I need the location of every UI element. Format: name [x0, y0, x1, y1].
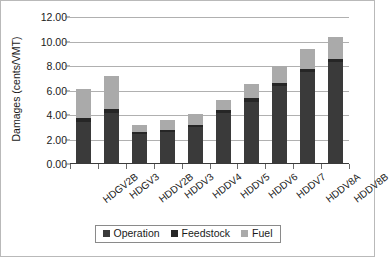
y-axis-tick-label: 0.00: [19, 158, 67, 170]
x-axis-label-hddv4: HDDV4: [211, 171, 244, 201]
bar-slot-hddv3: [154, 17, 182, 164]
plot-area: [70, 17, 349, 164]
stacked-bar[interactable]: [188, 114, 203, 164]
legend-label: Operation: [113, 228, 159, 239]
bar-slot-hddv2b: [126, 17, 154, 164]
legend-label: Fuel: [252, 228, 272, 239]
bar-segment-operation[interactable]: [104, 113, 119, 164]
bar-segment-fuel[interactable]: [76, 89, 91, 118]
stacked-bar[interactable]: [104, 76, 119, 164]
x-axis-tick-mark: [349, 164, 350, 169]
bar-segment-operation[interactable]: [216, 113, 231, 164]
bar-slot-hddv7: [265, 17, 293, 164]
stacked-bar[interactable]: [216, 100, 231, 164]
bar-segment-fuel[interactable]: [300, 49, 315, 69]
y-axis-tick-label: 10.00: [19, 36, 67, 48]
bar-segment-fuel[interactable]: [160, 120, 175, 130]
bar-segment-fuel[interactable]: [216, 100, 231, 110]
bar-segment-operation[interactable]: [188, 127, 203, 164]
bar-slot-hdgv3: [98, 17, 126, 164]
x-axis-label-hddv5: HDDV5: [238, 171, 271, 201]
legend-swatch-fuel: [241, 230, 248, 237]
x-axis-label-hddv6: HDDV6: [266, 171, 299, 201]
bar-slot-hddv8a: [293, 17, 321, 164]
stacked-bar[interactable]: [132, 125, 147, 164]
y-axis-tick-label: 8.00: [19, 60, 67, 72]
stacked-bar[interactable]: [272, 66, 287, 164]
bar-segment-operation[interactable]: [132, 134, 147, 164]
y-axis-tick-label: 6.00: [19, 85, 67, 97]
bar-segment-fuel[interactable]: [272, 66, 287, 83]
bar-segment-fuel[interactable]: [188, 114, 203, 125]
bar-segment-fuel[interactable]: [328, 37, 343, 59]
legend-label: Feedstock: [182, 228, 230, 239]
bar-segment-operation[interactable]: [328, 62, 343, 164]
bar-segment-fuel[interactable]: [104, 76, 119, 109]
x-axis-labels: HDGV2BHDGV3HDDV2BHDDV3HDDV4HDDV5HDDV6HDD…: [70, 169, 349, 215]
stacked-bar[interactable]: [76, 89, 91, 164]
stacked-bar[interactable]: [328, 37, 343, 164]
y-axis-tick-label: 4.00: [19, 109, 67, 121]
bar-segment-fuel[interactable]: [132, 125, 147, 132]
bar-segment-operation[interactable]: [76, 122, 91, 164]
bar-slot-hddv5: [210, 17, 238, 164]
y-axis-tick-label: 12.00: [19, 11, 67, 23]
bar-series-group: [70, 17, 349, 164]
bar-segment-operation[interactable]: [300, 72, 315, 164]
y-axis-tick-label: 2.00: [19, 134, 67, 146]
bar-slot-hddv8b: [321, 17, 349, 164]
legend-item-operation[interactable]: Operation: [102, 228, 159, 239]
stacked-bar[interactable]: [244, 84, 259, 164]
bar-segment-operation[interactable]: [244, 102, 259, 164]
legend-item-feedstock[interactable]: Feedstock: [171, 228, 230, 239]
bar-slot-hdgv2b: [70, 17, 98, 164]
bar-slot-hddv6: [237, 17, 265, 164]
chart-legend: OperationFeedstockFuel: [94, 225, 280, 243]
legend-swatch-operation: [102, 230, 109, 237]
bar-segment-operation[interactable]: [160, 132, 175, 164]
bar-slot-hddv4: [182, 17, 210, 164]
x-axis-label-hddv7: HDDV7: [294, 171, 327, 201]
legend-item-fuel[interactable]: Fuel: [241, 228, 272, 239]
legend-swatch-feedstock: [171, 230, 178, 237]
bar-segment-operation[interactable]: [272, 86, 287, 164]
stacked-bar[interactable]: [160, 120, 175, 164]
bar-segment-fuel[interactable]: [244, 84, 259, 98]
stacked-bar[interactable]: [300, 49, 315, 164]
